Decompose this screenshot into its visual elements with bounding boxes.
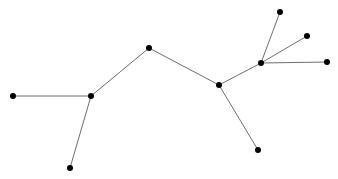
edge-G-J: [261, 62, 327, 63]
graph-canvas: [0, 0, 338, 179]
node-G: [258, 60, 264, 66]
node-A: [10, 93, 16, 99]
node-D: [146, 45, 152, 51]
node-I: [304, 33, 310, 39]
edge-E-F: [219, 85, 258, 150]
edge-G-H: [261, 12, 280, 63]
node-E: [216, 82, 222, 88]
edge-G-I: [261, 36, 307, 63]
node-C: [67, 165, 73, 171]
nodes-layer: [10, 9, 330, 171]
edge-B-C: [70, 96, 91, 168]
node-H: [277, 9, 283, 15]
node-J: [324, 59, 330, 65]
edge-E-G: [219, 63, 261, 85]
edge-B-D: [91, 48, 149, 96]
node-B: [88, 93, 94, 99]
node-F: [255, 147, 261, 153]
edge-D-E: [149, 48, 219, 85]
edges-layer: [13, 12, 327, 168]
